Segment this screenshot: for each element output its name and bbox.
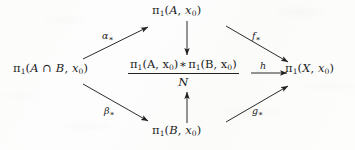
label-glyph: h	[260, 60, 266, 71]
paren-close-right: )	[232, 57, 237, 71]
comma: ,	[310, 61, 318, 75]
pi-symbol: π	[152, 123, 160, 137]
paren-close: )	[83, 61, 88, 75]
argument-A: A	[169, 3, 177, 17]
label-subscript: ∗	[108, 34, 113, 43]
paren-close: )	[330, 61, 335, 75]
paren-close: )	[197, 3, 202, 17]
basepoint-x: x	[185, 123, 192, 137]
arrow-label-beta-star: β∗	[104, 105, 115, 116]
argument-B: B	[169, 123, 178, 137]
label-subscript: ∗	[110, 109, 115, 118]
argument-B: B	[205, 57, 213, 71]
node-pi1-A: π1(A, x0)	[152, 4, 201, 17]
comma-left: ,	[155, 57, 162, 71]
pi-symbol-right: π	[188, 57, 196, 71]
arrow-alpha-star	[83, 27, 148, 59]
node-pi1-A-cap-B: π1(A ∩ B, x0)	[13, 62, 88, 75]
arrow-label-g-star: g∗	[252, 105, 263, 116]
basepoint-x: x	[185, 3, 192, 17]
label-subscript: ∗	[258, 109, 263, 118]
comma: ,	[64, 61, 72, 75]
arrow-label-f-star: f∗	[252, 30, 261, 41]
pi-symbol: π	[13, 61, 21, 75]
arrow-label-h-map: h	[260, 60, 266, 71]
free-product-operator: ∗	[178, 57, 188, 71]
comma-right: ,	[214, 57, 221, 71]
node-pi1-X: π1(X, x0)	[285, 62, 334, 75]
pi-symbol: π	[285, 61, 293, 75]
argument-A: A	[147, 57, 155, 71]
quotient-denominator: N	[128, 74, 239, 89]
argument-A: A	[30, 61, 38, 75]
commutative-diagram: π1(A, x0) π1(A ∩ B, x0) π1(B, x0) π1(X, …	[0, 0, 355, 150]
intersection-symbol: ∩	[39, 61, 56, 75]
quotient-numerator: π1(A, x0)∗π1(B, x0)	[128, 57, 239, 72]
comma: ,	[178, 3, 186, 17]
arrow-g-star	[226, 86, 288, 122]
pi-symbol-left: π	[130, 57, 138, 71]
node-free-product-mod-N: π1(A, x0)∗π1(B, x0) N	[128, 57, 239, 89]
arrow-beta-star	[83, 84, 148, 121]
paren-close: )	[197, 123, 202, 137]
basepoint-x: x	[318, 61, 325, 75]
label-subscript: ∗	[256, 34, 261, 43]
basepoint-x: x	[72, 61, 79, 75]
pi-symbol: π	[152, 3, 160, 17]
arrow-label-alpha-star: α∗	[102, 30, 114, 41]
node-pi1-B: π1(B, x0)	[152, 124, 201, 137]
